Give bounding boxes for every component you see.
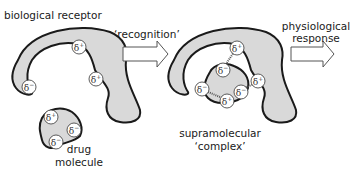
complex-label-line2: ‘complex’ [178, 140, 262, 152]
complex-charge-plus-right: δ+ [251, 74, 265, 88]
recognition-arrow-icon [123, 41, 168, 67]
drug-charge-plus: δ+ [44, 110, 58, 124]
complex-label-line1: supramolecular [178, 127, 262, 139]
receptor-charge-minus-left: δ− [22, 80, 36, 94]
complex-charge-minus-right: δ− [234, 85, 248, 99]
response-label-line1: physiological [281, 20, 351, 32]
receptor-label: biological receptor [4, 9, 102, 21]
receptor-charge-plus-right: δ+ [89, 72, 103, 86]
receptor-charge-plus-top: δ+ [72, 40, 86, 54]
drug-label-line1: drug [62, 143, 96, 155]
complex-charge-plus-bottom: δ+ [220, 94, 234, 108]
response-label-line2: response [281, 32, 351, 44]
response-arrow-icon [291, 41, 334, 67]
complex-charge-plus-top: δ+ [230, 41, 244, 55]
drug-charge-minus-bottom: δ− [49, 135, 63, 149]
drug-label-line2: molecule [54, 156, 104, 168]
recognition-label: ‘recognition’ [114, 28, 180, 40]
drug-charge-minus-right: δ− [67, 123, 81, 137]
complex-charge-minus-left: δ− [195, 82, 209, 96]
complex-charge-minus-inner: δ− [216, 63, 230, 77]
